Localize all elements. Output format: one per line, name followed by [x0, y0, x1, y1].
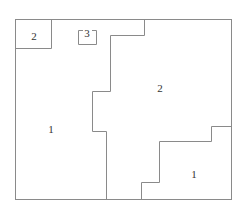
- label-center-right-region: 2: [157, 82, 163, 94]
- outer-boundary: [16, 20, 232, 200]
- label-small-box: 3: [84, 27, 90, 39]
- bottom-right-region-boundary: [142, 127, 232, 200]
- left-region-boundary: [93, 20, 145, 200]
- partition-diagram: 2 3 1 2 1: [0, 0, 246, 223]
- label-bottom-right-region: 1: [191, 168, 197, 180]
- label-left-region: 1: [48, 123, 54, 135]
- label-top-left-box: 2: [31, 30, 37, 42]
